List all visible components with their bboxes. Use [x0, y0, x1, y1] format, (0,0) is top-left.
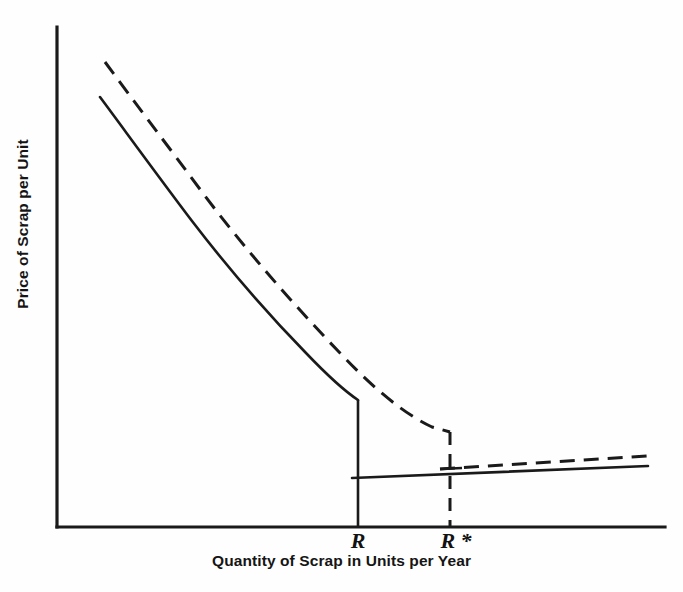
r-star-intersection-tick	[440, 468, 462, 469]
solid-horizontal-segment	[352, 466, 648, 478]
solid-curve	[100, 97, 358, 400]
dashed-curve	[105, 62, 450, 432]
figure-container: R R * Quantity of Scrap in Units per Yea…	[0, 0, 683, 592]
y-axis-label: Price of Scrap per Unit	[14, 94, 32, 354]
x-tick-label-r: R	[337, 528, 379, 554]
x-axis-label: Quantity of Scrap in Units per Year	[0, 552, 683, 570]
chart-canvas	[0, 0, 683, 592]
y-axis-label-wrapper: Price of Scrap per Unit	[14, 94, 38, 354]
x-tick-label-r-star: R *	[428, 528, 484, 554]
